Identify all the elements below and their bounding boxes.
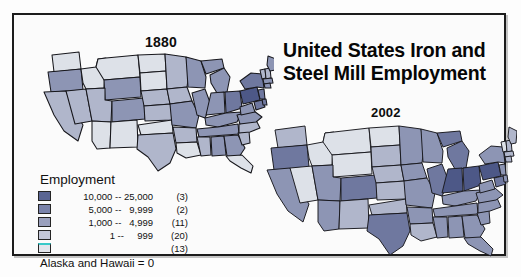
legend-count-label: (2) xyxy=(153,204,188,215)
state-az xyxy=(92,121,111,149)
state-sd xyxy=(371,145,401,167)
state-ny xyxy=(479,146,505,164)
legend-range-label: 1,000 -- 4,999 xyxy=(57,217,153,228)
state-or xyxy=(271,145,309,170)
state-in xyxy=(206,92,225,115)
legend-range-label: 10,000 -- 25,000 xyxy=(57,191,153,202)
state-az xyxy=(318,200,340,231)
legend-swatch xyxy=(38,204,51,214)
state-ne xyxy=(141,89,170,106)
legend-count-label: (3) xyxy=(153,191,188,202)
state-mt xyxy=(96,55,140,80)
state-nd xyxy=(138,54,166,73)
legend-swatch xyxy=(38,230,51,240)
state-oh xyxy=(225,91,242,113)
state-ny xyxy=(240,73,264,89)
state-wa xyxy=(275,126,307,148)
legend-note: Alaska and Hawaii = 0 xyxy=(40,257,206,270)
legend-count-label: (20) xyxy=(153,230,188,241)
state-ar xyxy=(407,207,433,224)
state-ok xyxy=(138,120,173,135)
choropleth-map-1880 xyxy=(34,45,274,177)
legend-item: 1 -- 999 (20) xyxy=(38,229,206,242)
legend: Employment 10,000 -- 25,000 (3) 5,000 --… xyxy=(38,172,206,270)
state-ct xyxy=(264,83,271,88)
state-co xyxy=(112,98,145,122)
state-ok xyxy=(369,199,407,215)
state-tx xyxy=(367,213,410,255)
state-fl xyxy=(464,237,493,256)
state-oh xyxy=(463,166,481,191)
page-title-line-2: Steel Mill Employment xyxy=(283,62,511,85)
legend-item: 5,000 -- 9,999 (2) xyxy=(38,203,206,216)
state-al xyxy=(448,216,464,238)
state-or xyxy=(48,69,83,92)
state-mt xyxy=(323,128,371,155)
state-la xyxy=(176,142,201,158)
legend-count-label: (13) xyxy=(153,243,188,254)
state-de xyxy=(262,99,267,105)
state-sd xyxy=(140,71,167,91)
state-nd xyxy=(369,126,400,147)
legend-range-label: 5,000 -- 9,999 xyxy=(57,204,153,215)
legend-swatch xyxy=(38,243,51,253)
legend-count-label: (11) xyxy=(153,217,188,228)
map-figure-frame: United States Iron and Steel Mill Employ… xyxy=(12,13,506,256)
state-nm xyxy=(110,120,138,148)
state-ne xyxy=(372,165,404,183)
legend-swatch xyxy=(38,217,51,227)
state-wy xyxy=(332,152,372,177)
state-ks xyxy=(376,181,406,200)
legend-swatch xyxy=(38,191,51,201)
page-title: United States Iron and Steel Mill Employ… xyxy=(283,39,511,85)
state-fl xyxy=(226,155,253,173)
state-nm xyxy=(339,199,369,229)
state-de xyxy=(503,175,508,182)
page-title-line-1: United States Iron and xyxy=(283,39,511,62)
legend-range-label: 1 -- 999 xyxy=(57,230,153,241)
legend-title: Employment xyxy=(40,172,206,187)
state-wy xyxy=(104,77,141,100)
legend-item: (13) xyxy=(38,242,206,255)
legend-item: 10,000 -- 25,000 (3) xyxy=(38,190,206,203)
scanned-page: United States Iron and Steel Mill Employ… xyxy=(0,0,521,277)
state-mn xyxy=(165,54,189,89)
state-co xyxy=(341,175,377,201)
state-tx xyxy=(137,133,176,171)
state-ct xyxy=(505,156,512,162)
state-al xyxy=(211,136,226,156)
state-la xyxy=(410,223,437,241)
state-mn xyxy=(399,126,424,165)
choropleth-map-2002 xyxy=(255,115,517,258)
legend-item: 1,000 -- 4,999 (11) xyxy=(38,216,206,229)
state-ar xyxy=(173,127,197,143)
state-mi-lower xyxy=(447,141,469,169)
state-ks xyxy=(144,104,172,121)
